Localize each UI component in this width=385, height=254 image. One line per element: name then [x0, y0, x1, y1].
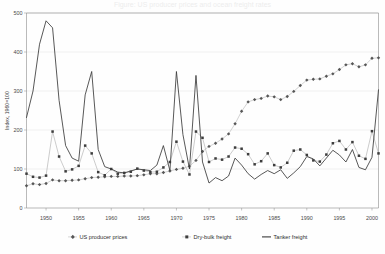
x-tick-label: 1990: [301, 215, 313, 221]
x-tick-label: 1955: [73, 215, 85, 221]
x-tick-labels: 1950195519601965197019751980198519901995…: [40, 215, 378, 221]
y-tick-label: 300: [14, 88, 23, 94]
y-tick-label: 400: [14, 49, 23, 55]
y-tick-label: 0: [20, 205, 23, 211]
y-tick-label: 500: [14, 10, 23, 16]
series-tanker-freight: [27, 21, 379, 183]
series-us-producer-prices: [25, 56, 380, 187]
chart-svg: 0100200300400500 19501955196019651970197…: [0, 0, 385, 254]
legend-square-marker: [185, 235, 188, 238]
legend-label: Dry-bulk freight: [194, 234, 232, 240]
legend-diamond-marker: [71, 235, 75, 239]
y-tick-labels: 0100200300400500: [14, 10, 23, 211]
y-axis-title: Index, 1960=100: [4, 91, 10, 130]
legend-label: Tanker freight: [274, 234, 308, 240]
data-series: [25, 21, 380, 188]
plot-area: 0100200300400500 19501955196019651970197…: [0, 0, 385, 254]
legend-label: US producer prices: [80, 234, 128, 240]
x-tick-label: 1965: [138, 215, 150, 221]
y-tick-label: 200: [14, 127, 23, 133]
x-tick-label: 1995: [333, 215, 345, 221]
gridlines: [27, 13, 379, 169]
axis-lines: [24, 13, 379, 211]
x-tick-label: 1980: [236, 215, 248, 221]
chart-root: Figure: US producer prices and ocean fre…: [0, 0, 385, 254]
x-tick-label: 1975: [203, 215, 215, 221]
legend-item-dry-bulk-freight[interactable]: Dry-bulk freight: [182, 234, 232, 240]
x-tick-label: 1950: [40, 215, 52, 221]
x-tick-label: 2000: [366, 215, 378, 221]
legend-item-tanker-freight[interactable]: Tanker freight: [262, 234, 308, 240]
series-dry-bulk-freight: [25, 130, 380, 179]
x-tick-label: 1985: [268, 215, 280, 221]
chart-legend[interactable]: US producer pricesDry-bulk freightTanker…: [68, 234, 308, 240]
y-tick-label: 100: [14, 166, 23, 172]
x-tick-label: 1970: [170, 215, 182, 221]
legend-item-us-producer-prices[interactable]: US producer prices: [68, 234, 128, 240]
x-tick-label: 1960: [105, 215, 117, 221]
y-axis-title-text: Index, 1960=100: [4, 91, 10, 130]
